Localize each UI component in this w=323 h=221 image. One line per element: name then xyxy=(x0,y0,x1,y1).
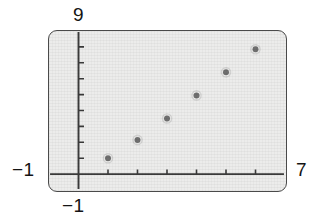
data-point[interactable] xyxy=(135,137,141,143)
screenshot-root: 9 −1 −1 7 xyxy=(0,0,323,221)
data-point[interactable] xyxy=(164,115,170,121)
y-axis-max-label: 9 xyxy=(73,5,84,24)
data-point[interactable] xyxy=(105,155,111,161)
x-axis-max-label: 7 xyxy=(296,160,307,179)
calculator-screen[interactable] xyxy=(48,30,287,192)
data-point[interactable] xyxy=(223,69,229,75)
plot-canvas xyxy=(49,31,285,190)
x-axis-min-label: −1 xyxy=(12,160,34,179)
y-axis-min-label: −1 xyxy=(62,196,84,215)
data-point[interactable] xyxy=(194,92,200,98)
scatter-plot[interactable] xyxy=(49,31,286,191)
data-point[interactable] xyxy=(253,46,259,52)
